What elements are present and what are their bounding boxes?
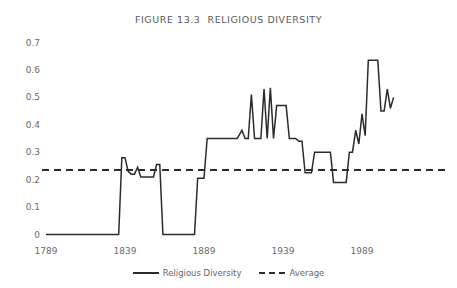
- x-axis-tick-1839: 1839: [105, 246, 145, 256]
- y-axis-tick-0-6: 0.6: [14, 65, 40, 75]
- chart-legend: Religious Diversity Average: [0, 268, 457, 278]
- y-axis-tick-0-3: 0.3: [14, 147, 40, 157]
- series-religious-diversity: [46, 60, 394, 234]
- legend-item-average: Average: [259, 268, 324, 278]
- legend-item-religious-diversity: Religious Diversity: [133, 268, 242, 278]
- legend-swatch-solid-icon: [133, 272, 159, 274]
- legend-label: Religious Diversity: [163, 268, 242, 278]
- y-axis-tick-0-7: 0.7: [14, 38, 40, 48]
- y-axis-tick-0-1: 0.1: [14, 202, 40, 212]
- y-axis-tick-0: 0: [14, 230, 40, 240]
- x-axis-tick-1789: 1789: [26, 246, 66, 256]
- figure-religious-diversity: FIGURE 13.3 RELIGIOUS DIVERSITY 00.10.20…: [0, 0, 457, 288]
- x-axis-tick-1889: 1889: [184, 246, 224, 256]
- y-axis-tick-0-4: 0.4: [14, 120, 40, 130]
- legend-swatch-dashed-icon: [259, 272, 285, 274]
- chart-plot-area: [0, 0, 457, 288]
- x-axis-tick-1989: 1989: [342, 246, 382, 256]
- y-axis-tick-0-2: 0.2: [14, 175, 40, 185]
- legend-label: Average: [289, 268, 324, 278]
- x-axis-tick-1939: 1939: [263, 246, 303, 256]
- y-axis-tick-0-5: 0.5: [14, 92, 40, 102]
